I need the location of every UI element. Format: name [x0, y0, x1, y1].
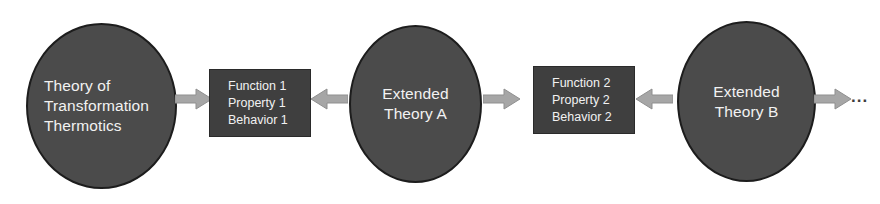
arrow-left-icon: [310, 88, 348, 110]
node-label-line: Thermotics: [44, 116, 122, 136]
node-label-line: Extended: [382, 84, 448, 104]
box-label-line: Function 2: [552, 75, 610, 92]
arrow-right-icon: [814, 88, 852, 110]
node-extended-theory-a: Extended Theory A: [349, 25, 482, 183]
box-label-line: Behavior 2: [552, 109, 612, 126]
node-label-line: Transformation: [44, 96, 149, 116]
node-extended-theory-b: Extended Theory B: [677, 21, 816, 182]
box-label-line: Behavior 1: [228, 112, 288, 129]
box-label-line: Property 2: [552, 92, 610, 109]
node-label-line: Extended: [713, 82, 779, 102]
arrow-left-icon: [635, 88, 673, 110]
arrow-right-icon: [483, 88, 521, 110]
node-label-line: Theory B: [715, 102, 779, 122]
box-label-line: Function 1: [228, 78, 286, 95]
continuation-ellipsis: ...: [851, 86, 868, 108]
node-attributes-box-1: Function 1 Property 1 Behavior 1: [209, 69, 311, 137]
node-theory-of-transformation-thermotics: Theory of Transformation Thermotics: [26, 23, 177, 189]
node-attributes-box-2: Function 2 Property 2 Behavior 2: [533, 66, 635, 134]
arrow-right-icon: [175, 88, 213, 110]
theory-flow-diagram: Theory of Transformation Thermotics Func…: [0, 0, 880, 204]
node-label-line: Theory of: [44, 76, 110, 96]
node-label-line: Theory A: [384, 104, 447, 124]
box-label-line: Property 1: [228, 95, 286, 112]
